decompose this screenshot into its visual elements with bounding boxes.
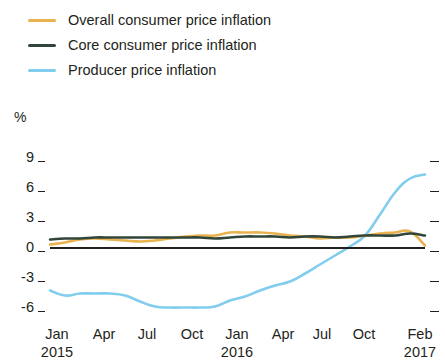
plot-area [0, 0, 445, 361]
zero-baseline [50, 247, 425, 249]
inflation-line-chart: Overall consumer price inflation Core co… [0, 0, 445, 361]
series-line [50, 234, 425, 240]
series-line [50, 175, 425, 308]
